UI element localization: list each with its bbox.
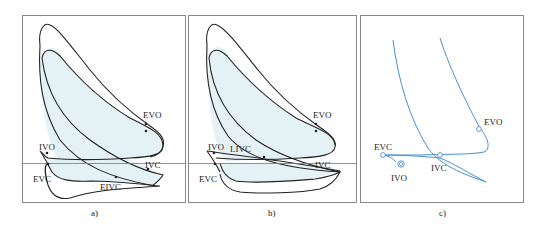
panel-b-label-ivc: IVC — [315, 160, 331, 170]
panel-c: EVO EVC IVO IVC c) — [361, 16, 524, 219]
panel-a-label-ivc: IVC — [145, 160, 161, 170]
panel-a-eivc-marker — [115, 176, 118, 179]
panel-b-caption: b) — [268, 208, 276, 218]
panel-b-label-ivo: IVO — [208, 142, 224, 152]
panel-b-ivo-marker — [213, 152, 216, 155]
panel-c-label-ivo: IVO — [391, 173, 407, 183]
panel-c-evc-marker — [381, 153, 386, 158]
panel-a-label-ivo: IVO — [39, 142, 55, 152]
panel-c-label-ivc: IVC — [431, 163, 447, 173]
panel-b: EVO IVO LIVC IVC EVC b) — [188, 16, 357, 219]
panel-a-label-evc: EVC — [33, 174, 51, 184]
panel-a-evo-marker — [145, 123, 148, 126]
panel-c-caption: c) — [439, 208, 446, 218]
panel-a-label-evo: EVO — [143, 110, 162, 120]
panel-b-evo-marker-2 — [315, 130, 318, 133]
panel-b-livc-marker — [263, 156, 266, 159]
panel-b-label-evo: EVO — [313, 110, 332, 120]
panel-c-ivc-marker — [438, 153, 443, 158]
panel-a-evc-marker — [47, 163, 50, 166]
panel-b-shaded-upper — [208, 47, 335, 161]
panel-a-ivo-marker — [46, 152, 49, 155]
valve-timing-figure: EVO IVO IVC EVC EIVC a) EVO IVO LIVC IVC… — [0, 0, 540, 230]
panel-a: EVO IVO IVC EVC EIVC a) — [22, 16, 186, 219]
panel-a-label-eivc: EIVC — [100, 182, 121, 192]
panel-c-evo-marker — [477, 127, 482, 132]
panel-b-label-evc: EVC — [199, 174, 217, 184]
panel-c-label-evc: EVC — [374, 142, 392, 152]
panel-c-expansion-curve — [383, 38, 488, 155]
panel-c-label-evo: EVO — [484, 117, 503, 127]
panel-a-caption: a) — [91, 208, 98, 218]
panel-b-evo-marker — [315, 123, 318, 126]
panel-b-evc-marker — [214, 163, 217, 166]
panel-a-evo-marker-2 — [145, 130, 148, 133]
panel-c-compression-curve — [393, 40, 486, 182]
panel-b-label-livc: LIVC — [230, 144, 251, 154]
panel-a-shaded-upper — [41, 48, 163, 161]
panel-c-ivo-marker-inner — [399, 162, 402, 165]
